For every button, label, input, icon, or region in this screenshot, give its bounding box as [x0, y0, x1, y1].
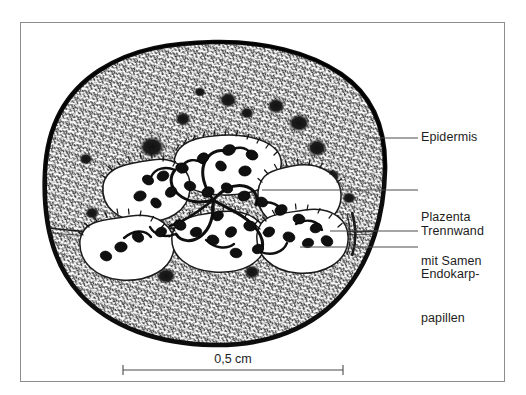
figure-plate: Epidermis Plazenta mit Samen Trennwand E… [0, 0, 526, 395]
label-endokarp-line2: papillen [421, 311, 480, 326]
label-endokarp-line1: Endokarp- [421, 267, 480, 282]
label-epidermis: Epidermis [421, 130, 477, 145]
label-plazenta-line1: Plazenta [421, 210, 482, 225]
label-trennwand: Trennwand [421, 224, 484, 239]
label-endokarp-papillen: Endokarp- papillen [421, 238, 480, 354]
scale-bar [123, 365, 343, 375]
scale-bar-label: 0,5 cm [0, 352, 466, 366]
